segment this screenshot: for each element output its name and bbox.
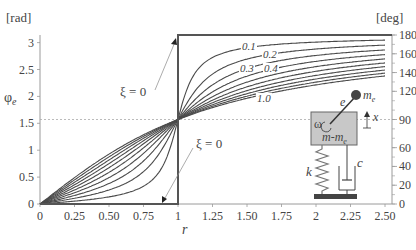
right-y-tick-label: 120 [399, 84, 416, 98]
unbalance-mass-diagram: me e ω m-me x k c [306, 88, 379, 199]
right-y-tick-label: 60 [399, 141, 411, 155]
left-y-tick-label: 2.5 [19, 63, 34, 77]
right-unit-label: [deg] [376, 10, 403, 25]
left-y-tick-label: 3 [28, 36, 34, 50]
x-axis-label: r [182, 222, 188, 237]
damper-label: c [357, 155, 363, 170]
x-tick-label: 0.50 [99, 209, 120, 223]
y-axis-label: φe [4, 90, 17, 107]
x-tick-label: 0 [37, 209, 43, 223]
right-y-tick-label: 90 [399, 113, 411, 127]
spring-k [316, 145, 328, 194]
left-y-tick-label: 2 [28, 89, 34, 103]
curve-label-0.1: 0.1 [242, 40, 256, 52]
x-tick-label: 2 [313, 209, 319, 223]
spring-label: k [306, 164, 312, 179]
right-y-tick-label: 140 [399, 66, 416, 80]
right-y-ticks: 020406090120140160180 [392, 28, 416, 211]
left-y-tick-label: 0.5 [19, 170, 34, 184]
lower-arrowhead-icon [162, 196, 167, 203]
left-y-tick-label: 1.5 [19, 116, 34, 130]
left-y-tick-label: 0 [28, 197, 34, 211]
x-tick-label: 2.50 [375, 209, 396, 223]
displacement-label: x [372, 110, 379, 124]
ground-base [314, 194, 357, 199]
x-tick-label: 1.25 [202, 209, 223, 223]
displacement-arrowhead-icon [364, 111, 370, 117]
upper-annotation-arrow [155, 42, 175, 90]
left-unit-label: [rad] [6, 10, 31, 25]
right-y-tick-label: 180 [399, 28, 416, 42]
right-y-tick-label: 20 [399, 178, 411, 192]
curve-label-1.0: 1.0 [257, 92, 271, 104]
curve-label-0.2: 0.2 [263, 48, 277, 60]
x-tick-label: 1 [175, 209, 181, 223]
x-ticks: 00.250.500.7511.251.501.7522.252.50 [37, 204, 396, 223]
omega-label: ω [314, 117, 322, 131]
xi-zero-upper-label: ξ = 0 [120, 84, 146, 99]
right-y-tick-label: 160 [399, 47, 416, 61]
phase-angle-chart: 00.250.500.7511.251.501.7522.252.50 00.5… [0, 0, 416, 250]
eccentric-mass [351, 90, 361, 100]
right-y-tick-label: 0 [399, 197, 405, 211]
x-tick-label: 1.75 [271, 209, 292, 223]
curve-label-0.3: 0.3 [240, 62, 254, 74]
right-y-tick-label: 40 [399, 159, 411, 173]
x-tick-label: 1.50 [237, 209, 258, 223]
curve-label-0.4: 0.4 [264, 62, 278, 74]
left-y-ticks: 00.511.522.53 [19, 36, 40, 211]
x-tick-label: 2.25 [340, 209, 361, 223]
xi-zero-lower-label: ξ = 0 [196, 136, 222, 151]
x-tick-label: 0.75 [133, 209, 154, 223]
eccentricity-label: e [340, 95, 346, 109]
x-tick-label: 0.25 [64, 209, 85, 223]
left-y-tick-label: 1 [28, 143, 34, 157]
upper-arrowhead-icon [171, 38, 177, 45]
eccentric-mass-label: me [363, 88, 376, 104]
